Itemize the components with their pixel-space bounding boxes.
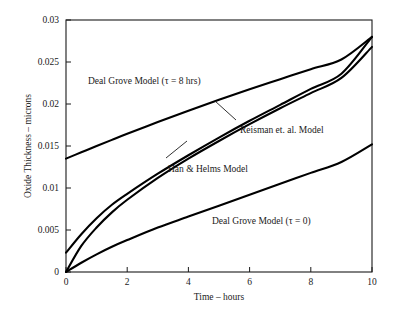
annotation-reisman: Reisman et. al. Model	[240, 125, 324, 135]
x-axis-tick-labels: 0246810	[64, 277, 377, 287]
plot-frame	[66, 20, 372, 272]
reisman-leader-line	[215, 101, 236, 120]
han-helms-leader-line	[166, 141, 187, 158]
y-tick-label: 0.03	[42, 15, 59, 25]
y-tick-label: 0.01	[42, 183, 59, 193]
y-axis-tick-labels: 00.0050.010.0150.020.0250.03	[38, 15, 60, 277]
plot-canvas: 00.0050.010.0150.020.0250.03 0246810 Tim…	[0, 0, 393, 316]
annotation-han-helms: Han & Helms Model	[168, 164, 248, 174]
annotation-deal-grove-tau0: Deal Grove Model (τ = 0)	[212, 216, 311, 227]
x-tick-label: 4	[186, 277, 191, 287]
y-tick-label: 0.025	[38, 57, 60, 67]
x-tick-label: 6	[247, 277, 252, 287]
y-axis-title: Oxide Thickness – microns	[23, 94, 33, 198]
x-axis-title: Time – hours	[194, 292, 245, 302]
y-tick-label: 0.015	[38, 141, 60, 151]
oxide-thickness-chart-figure: 00.0050.010.0150.020.0250.03 0246810 Tim…	[0, 0, 393, 316]
y-tick-label: 0	[54, 267, 59, 277]
x-tick-label: 8	[308, 277, 313, 287]
x-tick-label: 2	[125, 277, 130, 287]
x-axis-ticks	[66, 267, 372, 272]
y-tick-label: 0.005	[38, 225, 60, 235]
y-tick-label: 0.02	[42, 99, 59, 109]
annotation-deal-grove-tau8: Deal Grove Model (τ = 8 hrs)	[88, 76, 201, 87]
y-axis-ticks	[66, 20, 71, 272]
annotation-leaders	[166, 101, 236, 158]
x-tick-label: 10	[367, 277, 377, 287]
data-curves	[66, 37, 372, 272]
x-tick-label: 0	[64, 277, 69, 287]
